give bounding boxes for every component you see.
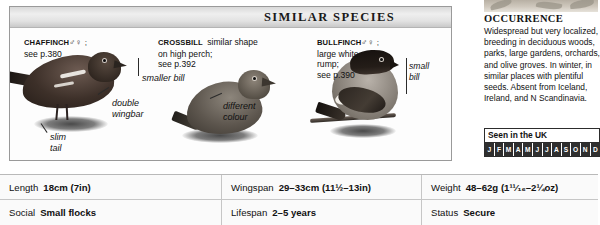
stat-label-lifespan: Lifespan — [231, 207, 267, 218]
annotation-different-colour-line1: different — [223, 101, 256, 112]
annotation-slim-tail: slim tail — [50, 132, 66, 153]
stat-label-wingspan: Wingspan — [231, 182, 274, 193]
stat-cell-wingspan: Wingspan 29–33cm (11½–13in) — [222, 175, 422, 199]
caption-bullfinch-page-ref: see p.390 — [317, 70, 379, 81]
caption-chaffinch: CHAFFINCH♂♀ ; see p.380 — [24, 35, 87, 59]
stat-cell-lifespan: Lifespan 2–5 years — [222, 200, 422, 225]
caption-bullfinch-name: BULLFINCH — [317, 38, 361, 47]
similar-species-body: CHAFFINCH♂♀ ; see p.380 CROSSBILL simila… — [10, 28, 451, 160]
bullfinch-shadow-ellipse — [330, 124, 396, 138]
caption-bullfinch-line1: large white — [317, 49, 379, 60]
caption-bullfinch-sex: ♂♀ ; — [361, 38, 379, 47]
stat-label-social: Social — [9, 207, 35, 218]
similar-species-title: SIMILAR SPECIES — [264, 10, 395, 25]
caption-crossbill: CROSSBILL similar shape on high perch; s… — [158, 35, 258, 70]
month-cell-jul: J — [543, 143, 553, 156]
month-cell-feb: F — [495, 143, 505, 156]
bullfinch-bill-shape — [390, 60, 399, 69]
habitat-photo — [484, 0, 598, 12]
annotation-double-wingbar: double wingbar — [112, 98, 144, 119]
seen-in-uk-panel: Seen in the UK J F M A M J J A S O N D — [484, 128, 600, 157]
occurrence-column: OCCURRENCE Widespread but very localized… — [484, 0, 598, 165]
annotation-double-wingbar-line1: double — [112, 98, 144, 109]
annotation-slim-tail-line1: slim — [50, 132, 66, 143]
similar-species-panel: SIMILAR SPECIES — [9, 6, 452, 161]
chaffinch-bill-shape — [114, 60, 128, 70]
caption-bullfinch: BULLFINCH♂♀ ; large white rump; see p.39… — [317, 35, 379, 80]
stat-value-social: Small flocks — [40, 207, 96, 218]
month-cell-apr: A — [514, 143, 524, 156]
annotation-small-bill-line2: bill — [409, 72, 429, 83]
stats-table: Length 18cm (7in) Wingspan 29–33cm (11½–… — [0, 174, 598, 225]
occurrence-body-text: Widespread but very localized, breeding … — [484, 26, 600, 104]
stat-value-wingspan: 29–33cm (11½–13in) — [279, 182, 371, 193]
month-cell-nov: N — [581, 143, 591, 156]
month-cell-jun: J — [533, 143, 543, 156]
caption-crossbill-line2: on high perch; — [158, 49, 258, 60]
bullfinch-eye-shape — [380, 58, 383, 61]
crossbill-bill-shape — [262, 78, 277, 88]
caption-chaffinch-name: CHAFFINCH — [24, 38, 69, 47]
annotation-smaller-bill: smaller bill — [142, 73, 185, 84]
month-cell-sep: S — [562, 143, 572, 156]
leader-line-small-bill — [406, 58, 407, 94]
stat-label-status: Status — [431, 207, 458, 218]
stat-label-weight: Weight — [431, 182, 461, 193]
stat-cell-weight: Weight 48–62g (1¹¹⁄₁₆–2¼oz) — [422, 175, 598, 199]
annotation-slim-tail-line2: tail — [50, 143, 66, 154]
caption-chaffinch-page-ref: see p.380 — [24, 49, 87, 60]
month-cell-jan: J — [485, 143, 495, 156]
stat-cell-status: Status Secure — [422, 200, 598, 225]
stat-cell-social: Social Small flocks — [0, 200, 222, 225]
crossbill-eye-shape — [253, 77, 256, 80]
annotation-different-colour: different colour — [223, 101, 256, 122]
annotation-small-bill-line1: small — [409, 61, 429, 72]
caption-bullfinch-line2: rump; — [317, 59, 379, 70]
stats-row: Social Small flocks Lifespan 2–5 years S… — [0, 200, 598, 225]
stats-row: Length 18cm (7in) Wingspan 29–33cm (11½–… — [0, 175, 598, 200]
caption-chaffinch-sex: ♂♀ ; — [69, 38, 87, 47]
stat-value-status: Secure — [463, 207, 495, 218]
habitat-photo-leaf-shape — [536, 0, 563, 11]
annotation-small-bill: small bill — [409, 61, 429, 82]
habitat-photo-leaf-shape — [489, 0, 512, 11]
month-cell-aug: A — [552, 143, 562, 156]
stat-value-length: 18cm (7in) — [43, 182, 90, 193]
leader-line-smaller-bill — [138, 58, 139, 76]
seen-in-uk-month-strip: J F M A M J J A S O N D — [485, 143, 599, 156]
stat-cell-length: Length 18cm (7in) — [0, 175, 222, 199]
caption-crossbill-line1: similar shape — [207, 37, 258, 47]
occurrence-heading: OCCURRENCE — [484, 13, 563, 24]
annotation-different-colour-line2: colour — [223, 112, 256, 123]
stat-value-weight: 48–62g (1¹¹⁄₁₆–2¼oz) — [466, 182, 559, 193]
month-cell-may: M — [523, 143, 533, 156]
stat-value-lifespan: 2–5 years — [272, 207, 316, 218]
similar-species-header: SIMILAR SPECIES — [10, 7, 451, 28]
stat-label-length: Length — [9, 182, 38, 193]
chaffinch-eye-shape — [103, 59, 106, 62]
caption-crossbill-page-ref: see p.392 — [158, 59, 258, 70]
month-cell-dec: D — [591, 143, 600, 156]
annotation-double-wingbar-line2: wingbar — [112, 109, 144, 120]
month-cell-mar: M — [504, 143, 514, 156]
month-cell-oct: O — [571, 143, 581, 156]
caption-crossbill-name: CROSSBILL — [158, 38, 203, 47]
habitat-photo-leaf-shape — [570, 0, 595, 9]
seen-in-uk-title: Seen in the UK — [485, 129, 599, 143]
